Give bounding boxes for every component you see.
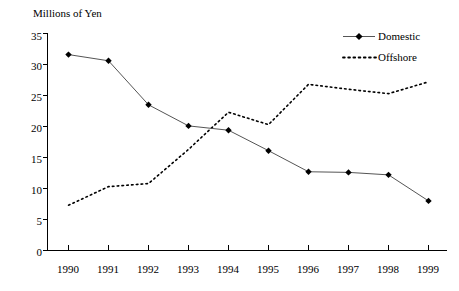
data-point-domestic-1996 [305, 169, 311, 175]
data-point-domestic-1998 [385, 172, 391, 178]
legend-swatch-domestic [343, 33, 375, 40]
data-point-domestic-1994 [225, 127, 231, 133]
y-axis-ticks [43, 34, 47, 251]
data-point-domestic-1990 [65, 51, 71, 57]
series-line-domestic [69, 55, 429, 201]
x-axis-ticks [69, 245, 429, 250]
data-point-domestic-1995 [265, 147, 271, 153]
data-point-domestic-1999 [425, 198, 431, 204]
data-point-domestic-1997 [345, 169, 351, 175]
series-line-offshore [69, 82, 429, 205]
plot-area [0, 0, 459, 291]
data-point-domestic-1993 [185, 123, 191, 129]
line-chart: Millions of Yen 35 30 25 20 15 10 5 0 19… [0, 0, 459, 291]
